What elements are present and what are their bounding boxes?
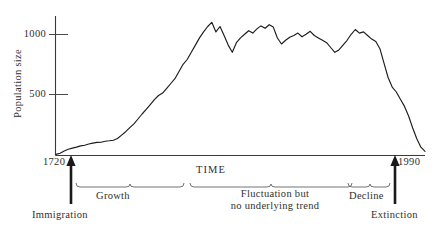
annotation-extinction: Extinction bbox=[371, 209, 418, 220]
x-axis-title: TIME bbox=[196, 164, 226, 175]
x-tick-label-end: 1990 bbox=[398, 156, 420, 167]
population-curve-figure: 1000 500 1720 1990 Population size TIME … bbox=[0, 0, 439, 235]
immigration-arrow-head bbox=[66, 155, 75, 166]
annotation-immigration: Immigration bbox=[32, 209, 88, 220]
bracket-decline bbox=[348, 183, 390, 187]
bracket-fluctuation bbox=[190, 183, 352, 187]
x-tick-label-start: 1720 bbox=[43, 156, 65, 167]
phase-label-fluctuation: Fluctuation butno underlying trend bbox=[215, 188, 335, 212]
y-axis-title: Population size bbox=[12, 29, 23, 139]
population-data-line bbox=[56, 22, 425, 154]
phase-label-decline: Decline bbox=[349, 190, 384, 201]
bracket-growth bbox=[76, 183, 184, 187]
phase-label-growth: Growth bbox=[96, 190, 130, 201]
